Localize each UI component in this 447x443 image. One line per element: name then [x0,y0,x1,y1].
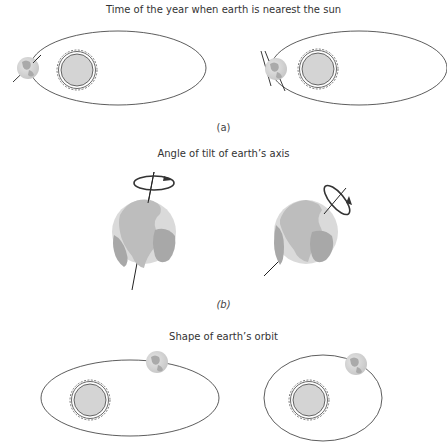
earth-icon [13,55,41,82]
orbit-ellipse [41,360,219,436]
earth-icon [146,351,168,373]
panel-c-left-system [41,351,219,436]
sun-icon [70,380,110,420]
sun-icon [289,380,329,420]
earth-icon [261,51,287,91]
globe-icon [274,200,338,265]
panel-a-left-system [13,31,206,105]
rotation-arrow-icon [134,176,174,190]
panel-a-right-system [261,31,447,105]
orbit-ellipse [271,31,447,105]
panel-c-right-system [264,353,382,441]
orbit-ellipse [30,31,206,105]
diagram-canvas [0,0,447,443]
sun-icon [57,50,97,90]
panel-b-right-globe [264,182,354,276]
panel-b-left-globe [112,172,176,290]
globe-icon [112,200,176,268]
sun-icon [298,49,338,89]
earth-icon [345,353,367,375]
